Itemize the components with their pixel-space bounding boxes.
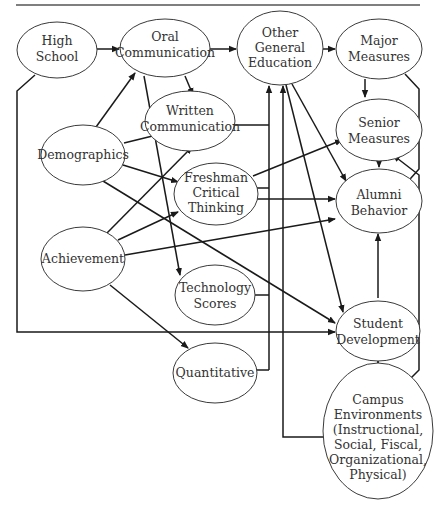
- node-label: Scores: [194, 296, 237, 311]
- node-achievement: Achievement: [41, 227, 125, 291]
- node-label: Demographics: [37, 147, 129, 162]
- node-label: Development: [336, 332, 420, 347]
- node-other-general-education: Other General Education: [237, 11, 323, 85]
- node-label: Environments: [334, 407, 423, 422]
- node-label: Quantitative: [176, 365, 255, 380]
- node-oral-communication: Oral Communication: [115, 19, 215, 77]
- node-label: General: [255, 40, 305, 55]
- node-label: Major: [360, 33, 398, 48]
- node-freshman-critical-thinking: Freshman Critical Thinking: [174, 163, 258, 225]
- node-label: Education: [248, 55, 312, 70]
- node-label: School: [36, 49, 79, 64]
- node-label: Freshman: [184, 170, 248, 185]
- node-label: Student: [353, 316, 403, 331]
- node-label: Campus: [352, 392, 403, 407]
- node-technology-scores: Technology Scores: [175, 265, 255, 325]
- node-written-communication: Written Communication: [140, 91, 240, 151]
- node-label: Social, Fiscal,: [334, 437, 422, 452]
- node-label: Achievement: [41, 251, 124, 266]
- node-label: Behavior: [351, 203, 408, 218]
- edge-freshman-senior: [253, 140, 342, 176]
- node-campus-environments: Campus Environments (Instructional, Soci…: [323, 363, 433, 499]
- node-quantitative: Quantitative: [173, 343, 257, 403]
- node-label: (Instructional,: [333, 422, 423, 437]
- node-label: Physical): [349, 467, 406, 482]
- node-label: Technology: [179, 280, 252, 295]
- node-label: Written: [166, 103, 214, 118]
- node-alumni-behavior: Alumni Behavior: [336, 169, 422, 233]
- node-label: High: [42, 33, 73, 48]
- node-label: Oral: [151, 29, 179, 44]
- node-high-school: High School: [17, 22, 97, 78]
- edge-achieve-freshman: [118, 212, 178, 240]
- node-demographics: Demographics: [37, 125, 129, 185]
- node-label: Senior: [358, 115, 400, 130]
- edge-campus-othergen: [283, 86, 323, 437]
- node-student-development: Student Development: [336, 301, 420, 361]
- edge-achieve-alumni: [125, 219, 335, 255]
- node-label: Measures: [348, 49, 410, 64]
- node-label: Critical: [192, 185, 239, 200]
- node-label: Thinking: [188, 200, 244, 215]
- node-label: Organizational,: [329, 452, 427, 467]
- node-label: Alumni: [356, 187, 402, 202]
- edge-demo-oral: [96, 73, 135, 127]
- node-label: Other: [262, 25, 299, 40]
- node-label: Measures: [348, 131, 410, 146]
- node-major-measures: Major Measures: [336, 19, 422, 79]
- node-senior-measures: Senior Measures: [336, 99, 422, 161]
- edge-demo-freshman: [123, 165, 178, 182]
- node-label: Communication: [140, 119, 240, 134]
- assessment-model-diagram: High School Oral Communication Other Gen…: [0, 0, 436, 505]
- node-label: Communication: [115, 45, 215, 60]
